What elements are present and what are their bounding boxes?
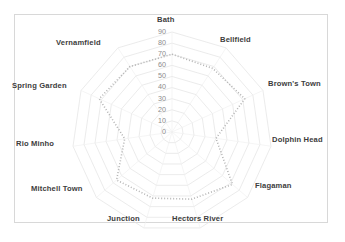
category-label-mitchell-town: Mitchell Town [31,184,83,193]
spoke-8 [73,132,172,146]
category-label-vernamfield: Vernamfield [56,38,101,47]
category-label-dolphin-head: Dolphin Head [272,135,323,144]
spoke-7 [96,132,172,197]
radar-plot-svg: 0102030405060708090 [0,0,345,242]
radar-chart: 0102030405060708090 Bath Bellfield Brown… [0,0,345,242]
radial-tick-10: 10 [158,116,166,125]
radial-tick-70: 70 [158,49,166,58]
spoke-4 [172,132,248,197]
category-label-junction: Junction [107,214,140,223]
radial-tick-60: 60 [158,60,166,69]
radial-tick-50: 50 [158,71,166,80]
category-label-flagaman: Flagaman [255,181,292,190]
radial-tick-80: 80 [158,38,166,47]
radial-tick-30: 30 [158,94,166,103]
category-label-spring-garden: Spring Garden [12,81,67,90]
category-label-bath: Bath [157,15,174,24]
radial-tick-labels: 0102030405060708090 [158,27,166,136]
radial-tick-90: 90 [158,27,166,36]
radial-tick-0: 0 [162,127,166,136]
radial-tick-40: 40 [158,82,166,91]
category-label-bellfield: Bellfield [220,35,251,44]
radar-spokes [73,32,271,228]
spoke-3 [172,132,271,146]
category-label-rio-minho: Rio Minho [16,139,54,148]
category-label-browns-town: Brown's Town [268,79,321,88]
radial-tick-20: 20 [158,105,166,114]
category-label-hectors-river: Hectors River [172,214,223,223]
